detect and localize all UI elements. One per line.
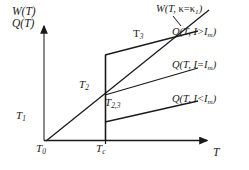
point-label-t1: T1 [16,110,26,122]
curve-w-kappa: κ=κ [179,3,196,14]
figure-w-q-vs-temperature: W(T) Q(T) T T0 Tc T1 T2 T2,3 T3 W(T, κ=κ… [0,0,249,170]
point-t3-main: T [133,27,140,39]
point-t1-sub: 1 [22,114,26,123]
q-curve-equal-current [105,68,198,95]
x-axis-label: T [213,146,219,158]
curve-label-q-eq: Q(T, I=Im) [172,59,216,72]
x-tick-tc-sub: c [102,147,105,156]
curve-q-lt-close: ) [213,93,217,104]
point-t3-sub: 3 [140,32,144,41]
y-axis-label-line2: Q(T) [12,17,36,29]
point-label-t2: T2 [79,79,89,91]
curve-label-q-gt: Q(T, I>Im) [172,26,216,39]
curve-q-gt-close: ) [213,26,217,37]
curve-q-eq-main: Q(T, I=I [172,59,207,70]
x-tick-t0-sub: 0 [42,147,46,156]
w-label-leader [173,16,181,26]
point-t23-sub: 2,3 [111,101,120,110]
curve-q-gt-main: Q(T, I>I [172,26,207,37]
curve-q-eq-close: ) [213,59,217,70]
point-t2-sub: 2 [85,83,89,92]
point-label-t23: T2,3 [105,97,120,109]
y-axis-label-line1: W(T) [12,5,36,17]
x-tick-label-t0: T0 [36,143,46,155]
y-axis-label: W(T) Q(T) [12,5,36,29]
point-label-t3: T3 [133,28,143,40]
x-tick-label-tc: Tc [96,143,105,155]
curve-label-q-lt: Q(T, I<Im) [172,93,216,106]
curve-w-main: W(T, [156,3,179,14]
curve-label-w: W(T, κ=κ1) [156,3,202,16]
curve-q-lt-main: Q(T, I<I [172,93,207,104]
curve-w-close: ) [199,3,203,14]
